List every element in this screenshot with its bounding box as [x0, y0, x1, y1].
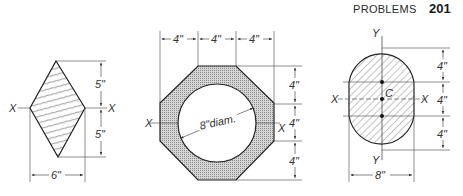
rhombus-axis-x-left: X	[8, 102, 17, 114]
stadium-dim-right-3: 4"	[437, 128, 448, 140]
octagon-dim-top-1: 4"	[173, 33, 184, 45]
figures-canvas: X X 5" 5" 6" 4	[0, 0, 463, 196]
stadium-axis-y-bottom: Y	[372, 154, 380, 166]
octagon-dim-right-1: 4"	[289, 79, 300, 91]
octagon-dim-top-3: 4"	[249, 33, 260, 45]
stadium-dim-right-2: 4"	[437, 94, 448, 106]
stadium-axis-y-top: Y	[372, 27, 380, 39]
octagon-axis-x-left: X	[144, 117, 153, 129]
rhombus-section	[30, 61, 85, 157]
stadium-dim-right-1: 4"	[437, 60, 448, 72]
rhombus-dim-width: 6"	[51, 169, 62, 181]
stadium-axis-x-left: X	[330, 93, 339, 105]
centroid-label: C	[385, 87, 393, 99]
rhombus-dim-lower: 5"	[95, 128, 106, 140]
stadium-figure: Y Y C X X 4" 4" 4"	[330, 27, 453, 182]
rhombus-dim-upper: 5"	[95, 78, 106, 90]
rhombus-figure: X X 5" 5" 6"	[8, 61, 116, 182]
octagon-axis-x-right: X	[277, 122, 286, 134]
octagon-dim-right-3: 4"	[289, 155, 300, 167]
octagon-dim-right-2: 4"	[289, 117, 300, 129]
octagon-dim-top-2: 4"	[211, 33, 222, 45]
hole-diameter-label: 8"diam.	[198, 112, 237, 131]
textbook-page: PROBLEMS 201	[0, 0, 463, 196]
stadium-axis-x-right: X	[420, 93, 429, 105]
octagon-figure: 4" 4" 4" X X 8"diam. 4	[144, 31, 303, 180]
rhombus-axis-x-right: X	[107, 102, 116, 114]
stadium-dim-width: 8"	[375, 169, 386, 181]
